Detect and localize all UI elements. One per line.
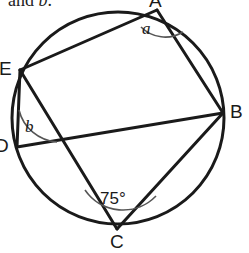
circle-diagram-canvas — [0, 0, 249, 253]
geometry-figure: and b. A B C D E a b 75° — [0, 0, 249, 253]
vertex-label-d: D — [0, 136, 9, 155]
vertex-label-a: A — [149, 0, 162, 10]
vertex-label-c: C — [110, 232, 124, 251]
vertex-label-b: B — [230, 102, 243, 121]
angle-label-b: b — [25, 118, 34, 135]
angle-label-a: a — [142, 20, 151, 37]
vertex-label-e: E — [0, 59, 12, 78]
angle-label-75-degrees: 75° — [100, 190, 126, 207]
